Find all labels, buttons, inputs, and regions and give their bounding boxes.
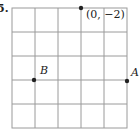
point-b xyxy=(32,78,36,82)
point-a-label: A xyxy=(131,66,139,79)
point-b-label: B xyxy=(40,64,48,77)
point-top xyxy=(79,6,83,10)
coordinate-grid xyxy=(0,0,140,140)
point-a xyxy=(125,79,129,83)
point-top-label: (0, −2) xyxy=(86,8,125,21)
